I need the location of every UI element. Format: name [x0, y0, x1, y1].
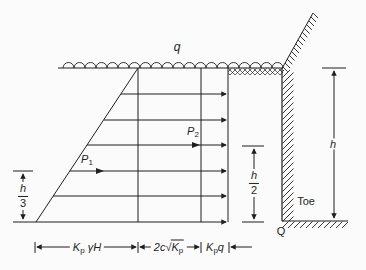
h-half-denominator: 2 [251, 184, 257, 197]
backslope-line [282, 13, 319, 72]
force-p2-arrowhead [192, 142, 200, 148]
radicand-symbol: K [171, 241, 178, 253]
h-third-denominator: 3 [20, 197, 26, 210]
force-p1-label: P1 [81, 154, 93, 165]
surcharge-crosshatch-strip [228, 69, 283, 76]
kpgh-subscript: p [80, 246, 84, 255]
kpgh-rest: γH [88, 241, 101, 253]
surcharge-symbol-row [63, 63, 283, 68]
wall-height-label: h [327, 139, 339, 150]
cohesion-coefficient: 2c [154, 241, 166, 253]
toe-label: Toe [297, 196, 315, 207]
dim-label-2c-sqrt-kp: 2c√Kp [151, 242, 187, 253]
radicand: Kp [170, 240, 184, 253]
passive-earth-pressure-diagram: q P1 P2 h3 h2 h Toe Q Kp γH 2c√Kp Kpq [0, 0, 366, 270]
h-third-fraction: h3 [15, 182, 31, 210]
surcharge-label: q [174, 41, 181, 53]
force-p1-arrowhead [96, 168, 104, 174]
h-half-numerator: h [249, 170, 259, 184]
force-p2-label: P2 [187, 126, 199, 137]
wall-face [282, 68, 294, 221]
dim-label-kp-q: Kpq [203, 242, 227, 253]
radicand-subscript: p [179, 246, 183, 255]
kpq-rest: q [218, 241, 224, 253]
diagram-linework [0, 0, 366, 270]
p2-subscript: 2 [194, 130, 198, 139]
h-half-fraction: h2 [246, 169, 262, 197]
h-third-numerator: h [18, 183, 28, 197]
toe-ground-line [282, 221, 348, 228]
pressure-arrows [13, 94, 226, 222]
dim-label-kp-gamma-h: Kp γH [70, 242, 104, 253]
radical-sign: √ [165, 241, 171, 253]
p1-subscript: 1 [88, 158, 92, 167]
corner-q-label: Q [277, 226, 286, 237]
